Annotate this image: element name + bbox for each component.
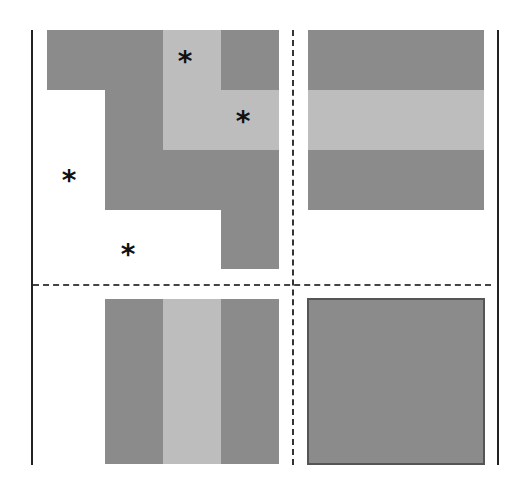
tl-dark-bottom-band bbox=[163, 150, 279, 210]
bl-dark-left bbox=[105, 299, 163, 464]
asterisk-marker: * bbox=[59, 167, 79, 187]
tl-dark-top-left bbox=[47, 30, 163, 90]
tl-dark-bottom-step bbox=[221, 210, 279, 269]
right-boundary-line bbox=[497, 30, 499, 465]
tr-light-band bbox=[308, 90, 484, 150]
tl-light-middle bbox=[163, 90, 279, 150]
br-dark-block bbox=[307, 298, 485, 465]
vertical-divider bbox=[292, 30, 294, 465]
asterisk-marker: * bbox=[175, 48, 195, 68]
left-boundary-line bbox=[31, 30, 33, 465]
bl-dark-right bbox=[221, 299, 279, 464]
tl-dark-column bbox=[105, 90, 163, 210]
bl-light-band bbox=[163, 299, 221, 464]
asterisk-marker: * bbox=[233, 108, 253, 128]
tr-dark-bottom bbox=[308, 150, 484, 210]
asterisk-marker: * bbox=[118, 241, 138, 261]
tl-dark-top-right bbox=[221, 30, 279, 90]
tr-dark-top bbox=[308, 30, 484, 90]
horizontal-divider bbox=[33, 284, 491, 286]
